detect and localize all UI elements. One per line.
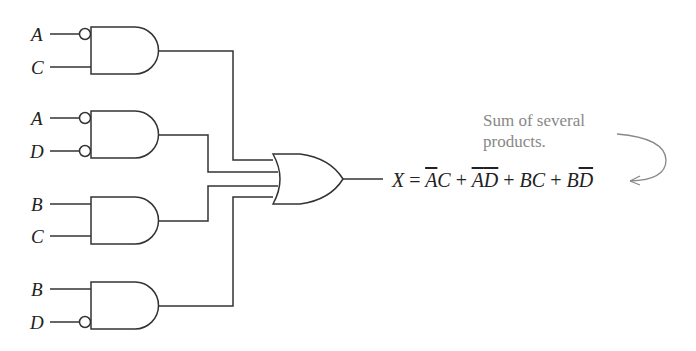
input-label-a: A [31,109,43,128]
and-gate-2 [50,111,278,172]
eq-term2-v2: D [484,169,498,191]
annotation-text: Sum of several products. [483,110,585,152]
eq-term3-v1: B [520,169,532,191]
or-gate [273,154,383,204]
eq-plus: + [503,169,514,191]
input-label-d: D [30,142,44,161]
eq-equals: = [409,169,420,191]
input-label-b: B [31,280,43,299]
eq-plus: + [456,169,467,191]
input-label-d: D [30,313,44,332]
annotation-arrow [617,134,666,185]
eq-output: X [392,169,404,191]
eq-term1-v1: A [425,169,437,191]
input-label-a: A [31,25,43,44]
input-label-b: B [31,195,43,214]
annotation-line-1: Sum of several [483,110,585,131]
and-gate-3 [50,186,278,244]
eq-term2-v1: A [472,169,484,191]
eq-term1-v2: C [437,169,450,191]
eq-term3-v2: C [532,169,545,191]
annotation-line-2: products. [483,131,585,152]
input-label-c: C [31,58,44,77]
eq-term4-v1: B [566,169,578,191]
eq-plus: + [550,169,561,191]
input-label-c: C [31,227,44,246]
boolean-equation: X = AC + AD + BC + BD [392,170,593,190]
and-gate-4 [50,197,273,329]
eq-term4-v2: D [579,169,593,191]
and-gate-1 [50,27,273,160]
logic-diagram: A C A D B C B D Sum of several products.… [0,0,696,351]
